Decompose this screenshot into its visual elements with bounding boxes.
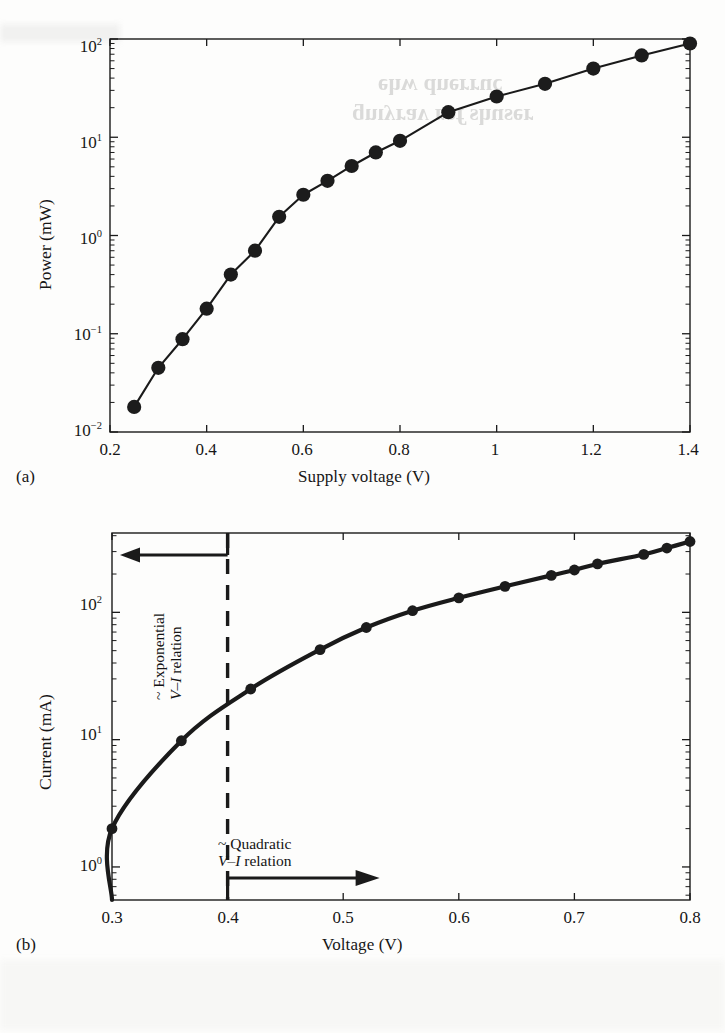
panel-b-tag: (b) [16,935,36,955]
relation-word: relation [240,852,291,869]
panel-b-ytick-100: 102 [40,595,102,615]
panel-a-xtick: 0.6 [274,440,330,460]
exp: 2 [97,594,102,605]
exp: −1 [91,324,102,335]
annotation-quadratic-line1: ~ Quadratic [218,835,292,852]
vi-symbol: V–I [218,852,240,869]
panel-b-y-axis-title: Current (mA) [35,694,56,790]
panel-b-xtick: 0.3 [84,908,140,928]
panel-a-xtick: 1 [467,440,523,460]
vi-symbol: V–I [167,678,184,700]
exp: 0 [97,855,102,866]
panel-a-xtick: 1.2 [563,440,619,460]
annotation-quadratic: ~ Quadratic V–I relation [218,835,292,870]
exp: 1 [97,724,102,735]
panel-b-xtick: 0.6 [431,908,487,928]
panel-a-xtick: 0.4 [178,440,234,460]
exp: 2 [97,36,102,47]
panel-a-ytick-100: 102 [40,37,102,57]
chart-panel-a: 102 101 100 10−1 10−2 0.2 0.4 0.6 0.8 1 … [0,0,725,500]
panel-a-ytick-0.01: 10−2 [40,421,102,441]
panel-b-xtick: 0.7 [546,908,602,928]
annotation-quadratic-line2: V–I relation [218,852,292,869]
panel-a-ytick-10: 101 [40,133,102,153]
annotation-exponential-line1: ~ Exponential [150,613,167,700]
panel-a-xtick: 1.4 [660,440,716,460]
panel-a-x-axis-title: Supply voltage (V) [298,467,430,487]
panel-a-ytick-0.1: 10−1 [40,325,102,345]
annotation-exponential-line2: V–I relation [167,613,184,700]
exp: 1 [97,132,102,143]
panel-a-plot-canvas [0,0,725,500]
panel-b-ytick-1: 100 [40,856,102,876]
panel-a-tag: (a) [16,467,35,487]
panel-b-xtick: 0.5 [315,908,371,928]
exp: 0 [97,228,102,239]
panel-a-y-axis-title: Power (mW) [35,199,56,290]
panel-b-xtick: 0.4 [200,908,256,928]
panel-a-xtick: 0.2 [82,440,138,460]
annotation-exponential: ~ Exponential V–I relation [150,613,185,700]
panel-a-xtick: 0.8 [371,440,427,460]
panel-b-xtick: 0.8 [662,908,718,928]
chart-panel-b: 102 101 100 0.3 0.4 0.5 0.6 0.7 0.8 Curr… [0,500,725,1033]
exp: −2 [91,420,102,431]
scanned-figure-page: ɔnɹɹǝup ʍɥǝ ɹǝsnɥs ɟoɹ ʌɐɹʎıuƃ 102 101 1… [0,0,725,1033]
relation-word: relation [167,626,184,677]
panel-b-x-axis-title: Voltage (V) [322,935,403,955]
